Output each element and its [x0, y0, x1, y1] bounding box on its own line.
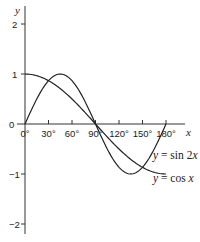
cosx-label: y = cos x	[152, 172, 195, 185]
sin2x-label-x: x	[191, 149, 198, 161]
x-tick-label: 0°	[20, 128, 29, 139]
sin2x-label: y = sin 2x	[152, 149, 198, 162]
x-axis-label: x	[185, 126, 191, 138]
x-tick-label: 180°	[156, 128, 176, 139]
y-tick-label: 0	[9, 119, 14, 130]
y-tick-label: 1	[12, 69, 17, 80]
x-tick-label: 60°	[65, 128, 80, 139]
y-axis-label: y	[14, 4, 20, 16]
cosx-label-x: x	[188, 172, 195, 184]
y-tick-label: −2	[9, 219, 20, 230]
chart: 210−1−2 0°30°60°90°120°150°180° y x y = …	[0, 0, 200, 242]
x-tick-label: 150°	[133, 128, 153, 139]
y-tick-label: −1	[9, 169, 20, 180]
x-tick-label: 30°	[41, 128, 56, 139]
cosx-label-eq: = cos	[158, 172, 188, 184]
x-tick-label: 120°	[109, 128, 129, 139]
y-tick-label: 2	[12, 19, 17, 30]
sin2x-label-eq: = sin 2	[158, 149, 193, 161]
